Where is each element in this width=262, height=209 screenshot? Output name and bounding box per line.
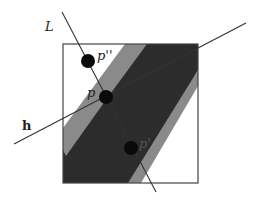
- label-line-h: h: [22, 119, 31, 132]
- point-p-prime: [124, 141, 138, 155]
- label-point-p-prime: p': [139, 137, 151, 150]
- label-line-L: L: [45, 20, 54, 33]
- point-p: [99, 90, 113, 104]
- label-point-p-double-prime: p'': [97, 49, 112, 62]
- diagram-canvas: [0, 0, 262, 209]
- label-point-p: p: [87, 86, 95, 99]
- point-p-double-prime: [81, 54, 95, 68]
